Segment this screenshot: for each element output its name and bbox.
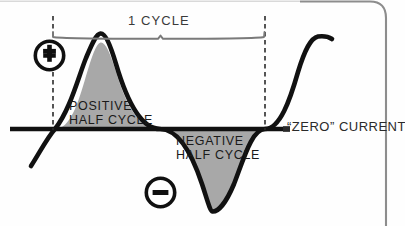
negative-half-cycle-label-line2: HALF CYCLE <box>176 149 260 163</box>
ac-waveform-svg <box>0 0 405 226</box>
positive-half-cycle-label-line2: HALF CYCLE <box>69 114 153 128</box>
minus-circle-icon <box>146 178 174 206</box>
cycle-span-label: 1 CYCLE <box>128 14 190 28</box>
negative-half-cycle-label-line1: NEGATIVE <box>176 135 260 149</box>
zero-current-label: “ZERO” CURRENT <box>287 120 405 134</box>
cycle-span-brace <box>53 32 265 39</box>
frame-border <box>300 2 386 227</box>
plus-circle-icon <box>35 41 63 69</box>
negative-half-cycle-label: NEGATIVE HALF CYCLE <box>176 135 260 162</box>
diagram-canvas: 1 CYCLE POSITIVE HALF CYCLE NEGATIVE HAL… <box>0 0 405 226</box>
positive-half-cycle-label-line1: POSITIVE <box>69 100 153 114</box>
positive-half-cycle-label: POSITIVE HALF CYCLE <box>69 100 153 127</box>
